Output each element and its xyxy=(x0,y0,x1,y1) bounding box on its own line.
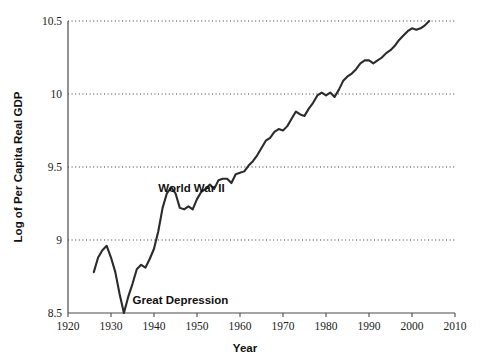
y-tick-label: 10 xyxy=(51,88,63,100)
x-tick-label: 1970 xyxy=(272,320,295,332)
x-tick-label: 1950 xyxy=(186,320,209,332)
x-tick-label: 2010 xyxy=(444,320,467,332)
y-axis-title: Log of Per Capita Real GDP xyxy=(12,91,24,242)
x-tick-label: 1930 xyxy=(100,320,123,332)
chart-canvas: 1920193019401950196019701980199020002010… xyxy=(0,0,490,363)
x-tick-label: 1920 xyxy=(57,320,80,332)
x-tick-label: 1940 xyxy=(143,320,166,332)
chart-annotation: World War II xyxy=(158,182,224,194)
x-tick-label: 1990 xyxy=(358,320,381,332)
annotations-group: World War IIGreat Depression xyxy=(133,182,229,306)
y-tick-labels-group: 8.599.51010.5 xyxy=(42,15,62,319)
x-axis-title: Year xyxy=(233,342,258,354)
x-tick-label: 2000 xyxy=(401,320,424,332)
y-tick-label: 9 xyxy=(56,234,62,246)
y-tick-label: 9.5 xyxy=(48,161,63,173)
x-tick-labels-group: 1920193019401950196019701980199020002010 xyxy=(57,320,467,332)
y-tick-label: 10.5 xyxy=(42,15,62,27)
gridlines-group xyxy=(68,21,455,240)
x-tick-label: 1960 xyxy=(229,320,252,332)
x-tick-label: 1980 xyxy=(315,320,338,332)
chart-annotation: Great Depression xyxy=(133,294,229,306)
gdp-line-chart: 1920193019401950196019701980199020002010… xyxy=(0,0,490,363)
y-tick-label: 8.5 xyxy=(48,307,63,319)
